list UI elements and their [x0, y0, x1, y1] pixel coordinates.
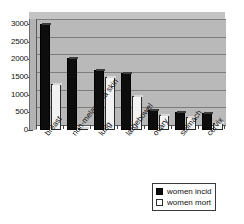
bar-incidence[interactable]: [121, 73, 131, 130]
legend-label-women-incid: women incid: [167, 187, 211, 196]
bar-group: [202, 24, 229, 130]
x-axis-tick: [198, 125, 199, 129]
x-axis-tick: [36, 125, 37, 129]
bar-chart: 050010001500200025003000 breastnon-melan…: [0, 0, 244, 224]
bar-group: [94, 24, 121, 130]
legend-item-women-incid[interactable]: women incid: [156, 186, 211, 197]
y-axis-tick-label: 1500: [11, 73, 28, 81]
y-axis-tick-label: 2500: [11, 38, 28, 46]
y-axis-tick-label: 3000: [11, 20, 28, 28]
y-axis-tick-label: 1000: [11, 91, 28, 99]
y-axis-tick-label: 500: [15, 108, 28, 116]
y-axis-tick-label: 2000: [11, 55, 28, 63]
legend-swatch-icon-women-incid: [156, 188, 163, 195]
bar-incidence[interactable]: [67, 58, 77, 130]
x-axis-tick: [171, 125, 172, 129]
legend: women incid women mort: [152, 183, 216, 211]
plot-area-wrapper: [36, 14, 232, 125]
x-axis-tick: [90, 125, 91, 129]
x-axis-tick: [144, 125, 145, 129]
x-axis-tick: [117, 125, 118, 129]
bar-incidence[interactable]: [40, 24, 50, 130]
x-axis-tick: [63, 125, 64, 129]
x-axis-tick: [224, 125, 225, 129]
plot-top-ledge: [29, 12, 225, 19]
gridline: [37, 19, 226, 20]
legend-item-women-mort[interactable]: women mort: [156, 197, 211, 208]
bar-group: [148, 24, 175, 130]
legend-label-women-mort: women mort: [167, 198, 211, 207]
bar-group: [40, 24, 67, 130]
y-axis-tick: [28, 130, 33, 131]
legend-swatch-icon-women-mort: [156, 199, 163, 206]
